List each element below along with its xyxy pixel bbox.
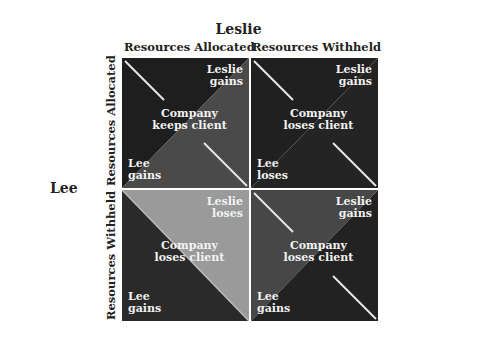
column-header-withheld: Resources Withheld bbox=[252, 40, 381, 54]
column-header-allocated: Resources Allocated bbox=[124, 40, 255, 54]
cell-withheld-withheld: Leslie gains Company loses client Lee ga… bbox=[251, 190, 378, 321]
row-player-label: Lee bbox=[50, 180, 78, 196]
cell-allocated-withheld: Leslie gains Company loses client Lee lo… bbox=[251, 58, 378, 188]
row-header-allocated: Resources Allocated bbox=[104, 55, 118, 186]
lee-payoff: Lee gains bbox=[128, 291, 161, 315]
cell-allocated-allocated: Leslie gains Company keeps client Lee ga… bbox=[122, 58, 249, 188]
company-outcome: Company loses client bbox=[122, 240, 249, 264]
leslie-payoff: Leslie loses bbox=[207, 196, 243, 220]
leslie-payoff: Leslie gains bbox=[336, 64, 372, 88]
leslie-payoff: Leslie gains bbox=[207, 64, 243, 88]
lee-payoff: Lee loses bbox=[257, 158, 288, 182]
leslie-payoff: Leslie gains bbox=[336, 196, 372, 220]
column-player-title: Leslie bbox=[0, 21, 477, 37]
company-outcome: Company loses client bbox=[251, 108, 378, 132]
company-outcome: Company keeps client bbox=[122, 108, 249, 132]
row-header-withheld: Resources Withheld bbox=[104, 191, 118, 320]
payoff-matrix: Leslie gains Company keeps client Lee ga… bbox=[122, 58, 378, 321]
lee-payoff: Lee gains bbox=[128, 158, 161, 182]
company-outcome: Company loses client bbox=[251, 240, 378, 264]
lee-payoff: Lee gains bbox=[257, 291, 290, 315]
cell-withheld-allocated: Leslie loses Company loses client Lee ga… bbox=[122, 190, 249, 321]
